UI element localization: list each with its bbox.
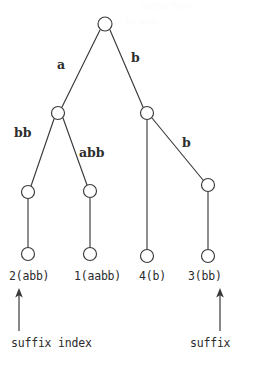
leaf-node-1 <box>84 248 97 261</box>
leaf-label-3-bb: 3(bb) <box>188 271 222 283</box>
node-a-bb <box>22 186 35 199</box>
arrow-suffix-index <box>15 288 23 331</box>
edge-label-a: a <box>57 59 65 72</box>
leaf-label-2-abb: 2(abb) <box>9 271 49 283</box>
edge-label-b-second: b <box>182 137 191 150</box>
leaf-node-4 <box>141 250 154 263</box>
edge-label-abb: abb <box>79 147 105 160</box>
leaf-node-2 <box>22 248 35 261</box>
node-root <box>98 17 112 31</box>
node-b <box>141 107 154 120</box>
node-a <box>52 107 65 120</box>
arrow-suffix <box>216 288 224 331</box>
leaf-label-4-b: 4(b) <box>139 271 166 283</box>
edge-b-to-b <box>152 118 203 180</box>
caption-suffix-index: suffix index <box>11 338 92 350</box>
leaf-label-1-aabb: 1(aabb) <box>74 271 121 283</box>
node-b-b <box>202 179 215 192</box>
suffix-tree-figure: Suffix Tree for aabb <box>0 0 257 366</box>
edge-root-to-b <box>110 30 143 107</box>
edge-a-to-bb <box>31 119 54 186</box>
edge-label-b: b <box>131 52 140 65</box>
edge-root-to-a <box>62 30 100 107</box>
leaf-node-3 <box>202 250 215 263</box>
edge-label-bb: bb <box>14 127 31 140</box>
caption-suffix: suffix <box>190 338 230 350</box>
node-a-abb <box>84 185 97 198</box>
tree-graphics <box>0 0 257 366</box>
